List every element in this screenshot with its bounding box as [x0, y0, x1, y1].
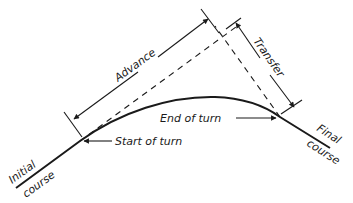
diagram-svg: Advance Transfer End of turn Start of tu…: [0, 0, 353, 203]
advance-dimension-line-2: [158, 19, 208, 57]
transfer-tick-bottom: [281, 100, 302, 114]
turning-diagram: Advance Transfer End of turn Start of tu…: [0, 0, 353, 203]
transfer-label: Transfer: [251, 35, 288, 81]
advance-tick-end: [201, 9, 219, 33]
advance-dimension-line: [74, 72, 138, 119]
start-of-turn-label: Start of turn: [115, 135, 182, 148]
end-of-turn-label: End of turn: [160, 112, 221, 125]
advance-label: Advance: [111, 46, 158, 85]
transfer-dimension-line-2: [270, 75, 294, 107]
